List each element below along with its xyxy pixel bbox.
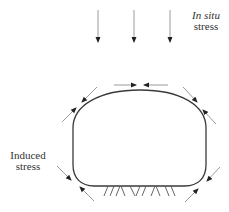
induced-stress-arrows-upper-right xyxy=(183,87,216,124)
in-situ-label-line2: stress xyxy=(184,21,228,32)
upper-right-arrow-outer xyxy=(183,87,197,102)
tunnel-outline xyxy=(73,90,206,186)
lower-right-arrow-inner xyxy=(185,189,198,202)
upper-left-arrow-outer xyxy=(82,87,97,102)
in-situ-stress-label: In situ stress xyxy=(184,10,228,32)
lower-right-arrow-outer xyxy=(207,167,220,181)
lower-left-arrow-inner xyxy=(80,187,94,201)
induced-label-line2: stress xyxy=(2,161,54,172)
induced-stress-arrows-upper-left xyxy=(62,87,97,122)
induced-stress-arrows-lower-right xyxy=(185,167,220,202)
induced-stress-label: Induced stress xyxy=(2,150,54,172)
lower-left-arrow-outer xyxy=(57,166,71,180)
floor-hatching xyxy=(104,186,175,196)
induced-stress-arrows-lower-left xyxy=(57,166,94,201)
in-situ-stress-arrows xyxy=(98,10,170,42)
